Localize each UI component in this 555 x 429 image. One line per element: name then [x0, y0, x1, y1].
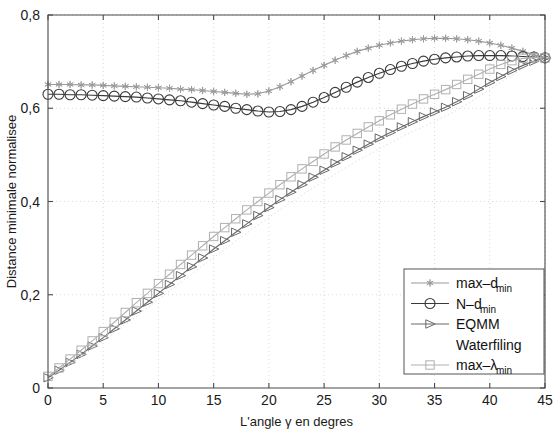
x-tick-label: 20: [261, 392, 277, 408]
series-Ndmin: [43, 51, 550, 117]
y-tick-label: 0,2: [21, 287, 41, 303]
y-tick-label: 0,6: [21, 100, 41, 116]
marker-star: [332, 57, 338, 64]
x-tick-label: 5: [99, 392, 107, 408]
x-tick-label: 25: [316, 392, 332, 408]
distance-minimale-chart: 05101520253035404500,20,40,60,8L'angle γ…: [0, 0, 555, 429]
x-tick-label: 35: [427, 392, 443, 408]
legend: max–dminN–dminEQMMWaterfilingmax–λmin: [404, 269, 544, 376]
y-tick-label: 0,4: [21, 194, 41, 210]
marker-star: [354, 48, 360, 55]
x-tick-label: 15: [206, 392, 222, 408]
x-tick-label: 30: [372, 392, 388, 408]
x-tick-label: 0: [44, 392, 52, 408]
marker-star: [299, 72, 305, 79]
legend-item-label: EQMM: [456, 316, 500, 332]
series-maxdmin: [45, 35, 548, 98]
legend-item-label: max–λ: [456, 357, 497, 373]
x-axis-title: L'angle γ en degres: [240, 414, 354, 429]
marker-star: [277, 83, 283, 90]
x-tick-label: 45: [537, 392, 553, 408]
marker-star: [343, 52, 349, 59]
y-axis-title: Distance minimale normalisee: [4, 115, 19, 288]
legend-item-subscript: min: [480, 304, 496, 315]
x-tick-label: 40: [482, 392, 498, 408]
legend-item-label: N–d: [456, 296, 482, 312]
chart-figure: 05101520253035404500,20,40,60,8L'angle γ…: [0, 0, 555, 429]
marker-star: [288, 78, 294, 85]
legend-item-subscript: min: [496, 365, 512, 376]
legend-item-label: Waterfiling: [456, 337, 522, 353]
y-tick-label: 0: [32, 380, 40, 396]
legend-item[interactable]: Waterfiling: [456, 337, 522, 353]
marker-star: [310, 67, 316, 74]
legend-item-label: max–d: [456, 275, 498, 291]
marker-star: [321, 62, 327, 69]
series-line: [48, 38, 545, 94]
y-tick-label: 0,8: [21, 7, 41, 23]
x-tick-label: 10: [151, 392, 167, 408]
legend-item-subscript: min: [496, 283, 512, 294]
